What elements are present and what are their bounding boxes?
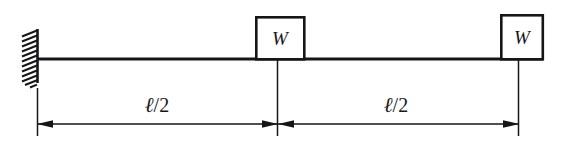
beam-diagram-figure: W W ℓ/2 ℓ/2: [0, 0, 567, 149]
load-block-right-label: W: [514, 27, 532, 48]
dimension-left-fraction: /2: [154, 94, 170, 116]
dimension-left-symbol: ℓ: [145, 93, 154, 117]
beam-diagram-canvas: W W ℓ/2 ℓ/2: [0, 0, 567, 149]
dimension-left-label: ℓ/2: [145, 93, 169, 117]
load-block-center: W: [256, 17, 304, 59]
dimension-right-label: ℓ/2: [384, 93, 408, 117]
dimension-right-fraction: /2: [393, 94, 409, 116]
load-block-center-label: W: [272, 28, 290, 49]
dimension-right-symbol: ℓ: [384, 93, 393, 117]
load-block-right: W: [501, 15, 543, 59]
